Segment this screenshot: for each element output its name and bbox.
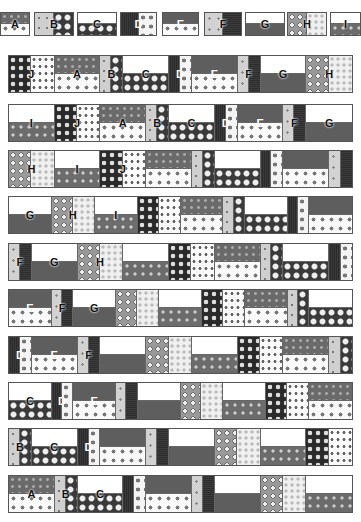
block-label: F [220,18,227,30]
block-e: E [32,337,78,373]
block-b: B [100,56,123,92]
block-label: H [325,68,333,80]
block-label: E [177,18,184,30]
block-f [329,151,352,187]
block-h [215,429,261,465]
block-label: J [120,163,126,175]
block-a: A [100,105,146,141]
block-a: A [9,476,55,512]
block-label: A [119,117,127,129]
block-label: E [26,302,33,314]
block-label: E [211,68,218,80]
block-b: B [55,476,78,512]
block-label: I [344,18,347,30]
block-b [223,197,244,233]
block-g: G [261,56,307,92]
block-f [146,429,169,465]
block-a [146,151,192,187]
block-j: J [9,56,55,92]
block-i [192,337,238,373]
block-f [192,476,215,512]
block-i [261,429,307,465]
block-j [138,197,181,233]
block-f: F [238,56,261,92]
block-j [306,429,352,465]
block-label: D [176,68,184,80]
block-label: C [187,117,195,129]
block-label: C [142,68,150,80]
block-a [215,244,261,280]
quilt-row: JABCDEFGH [8,55,353,93]
quilt-row: BCD [8,428,353,466]
block-g: G [73,290,116,326]
block-h [181,383,224,419]
block-g [169,429,215,465]
block-label: D [85,441,93,453]
block-label: B [16,441,24,453]
block-label: E [256,117,263,129]
block-a [181,197,224,233]
block-label: G [261,18,270,30]
block-g [215,476,261,512]
block-label: J [28,68,34,80]
block-b [329,337,352,373]
block-g [100,337,146,373]
block-f [116,383,137,419]
quilt-row: FGH [8,243,353,281]
block-e: E [238,105,284,141]
block-c: C [169,105,215,141]
block-h: H [306,56,352,92]
block-label: H [27,163,35,175]
block-label: G [279,68,288,80]
block-d: D [215,105,238,141]
block-i [223,383,266,419]
block-j [202,290,245,326]
block-f: F [52,290,73,326]
block-a [283,337,329,373]
block-label: E [51,349,58,361]
block-d [288,197,309,233]
block-j [266,383,309,419]
block-label: D [222,117,230,129]
quilt-row: ABC [8,475,353,513]
quilt-row: HIJ [8,150,353,188]
block-e: E [73,383,116,419]
block-e: E [192,56,238,92]
block-i: I [9,105,55,141]
block-label: J [74,117,80,129]
block-label: H [303,18,311,30]
block-i [159,290,202,326]
block-label: B [50,18,58,30]
block-label: D [135,18,143,30]
block-g: G [306,105,352,141]
block-i [123,244,169,280]
key-block-i: I [330,12,361,36]
block-label: D [58,395,66,407]
block-j [238,337,284,373]
block-h: H [52,197,95,233]
block-label: E [91,395,98,407]
block-a [309,383,352,419]
block-label: C [50,441,58,453]
quilt-row: DEF [8,336,353,374]
block-label: A [73,68,81,80]
block-d [123,476,146,512]
block-d: D [78,429,101,465]
block-g: G [32,244,78,280]
block-c: C [9,383,52,419]
block-b: B [146,105,169,141]
block-c: C [123,56,169,92]
block-j: J [100,151,146,187]
block-label: G [26,209,35,221]
block-f: F [283,105,306,141]
block-e [100,429,146,465]
block-label: H [96,256,104,268]
quilt-row: IJABCDEFG [8,104,353,142]
block-label: F [17,256,24,268]
block-g [138,383,181,419]
block-h [146,337,192,373]
block-d: D [52,383,73,419]
block-label: I [30,117,33,129]
block-label: F [85,349,92,361]
block-e [146,476,192,512]
